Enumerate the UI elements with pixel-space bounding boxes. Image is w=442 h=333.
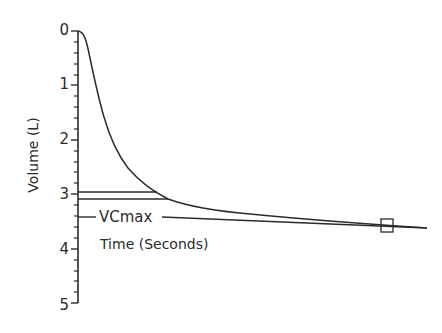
ytick-label-4: 4 xyxy=(55,242,69,257)
y-axis-label: Volume (L) xyxy=(25,117,41,192)
vcmax-label: VCmax xyxy=(97,208,154,226)
ytick-label-1: 1 xyxy=(55,77,69,92)
volume-time-chart: 0 1 2 3 4 5 Volume (L) VCmax Time (Secon… xyxy=(0,0,442,333)
x-axis-label: Time (Seconds) xyxy=(100,235,208,253)
ytick-label-2: 2 xyxy=(55,132,69,147)
ytick-label-3: 3 xyxy=(55,187,69,202)
ytick-label-0: 0 xyxy=(55,23,69,38)
ytick-label-5: 5 xyxy=(55,298,69,313)
y-major-ticks xyxy=(71,31,78,303)
chart-plot xyxy=(0,0,442,333)
